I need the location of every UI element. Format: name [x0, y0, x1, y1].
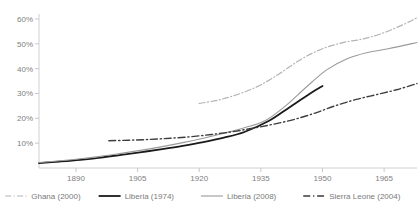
series-line-3	[109, 84, 417, 141]
legend-label-2: Liberia (2008)	[227, 192, 277, 201]
x-tick-label: 1965	[375, 174, 393, 183]
series-line-1	[39, 86, 323, 163]
chart-svg: 10%20%30%40%50%60% 189019051920193519501…	[0, 0, 419, 210]
x-axis: 189019051920193519501965	[39, 168, 417, 183]
y-axis: 10%20%30%40%50%60%	[17, 14, 39, 168]
y-tick-label: 60%	[17, 15, 33, 24]
series-line-0	[199, 18, 417, 104]
x-tick-label: 1920	[190, 174, 208, 183]
x-tick-label: 1905	[129, 174, 147, 183]
line-chart: 10%20%30%40%50%60% 189019051920193519501…	[0, 0, 419, 210]
y-tick-label: 10%	[17, 139, 33, 148]
series-group	[39, 18, 417, 163]
legend-label-0: Ghana (2000)	[31, 192, 81, 201]
legend-label-1: Liberia (1974)	[125, 192, 175, 201]
x-tick-label: 1950	[314, 174, 332, 183]
series-line-2	[39, 43, 417, 163]
y-tick-label: 40%	[17, 65, 33, 74]
y-tick-label: 20%	[17, 114, 33, 123]
legend-label-3: Sierra Leone (2004)	[329, 192, 400, 201]
y-tick-label: 50%	[17, 40, 33, 49]
chart-legend: Ghana (2000)Liberia (1974)Liberia (2008)…	[5, 192, 400, 201]
y-tick-group: 10%20%30%40%50%60%	[17, 15, 39, 148]
x-tick-group: 189019051920193519501965	[67, 168, 393, 183]
y-tick-label: 30%	[17, 89, 33, 98]
x-tick-label: 1890	[67, 174, 85, 183]
x-tick-label: 1935	[252, 174, 270, 183]
